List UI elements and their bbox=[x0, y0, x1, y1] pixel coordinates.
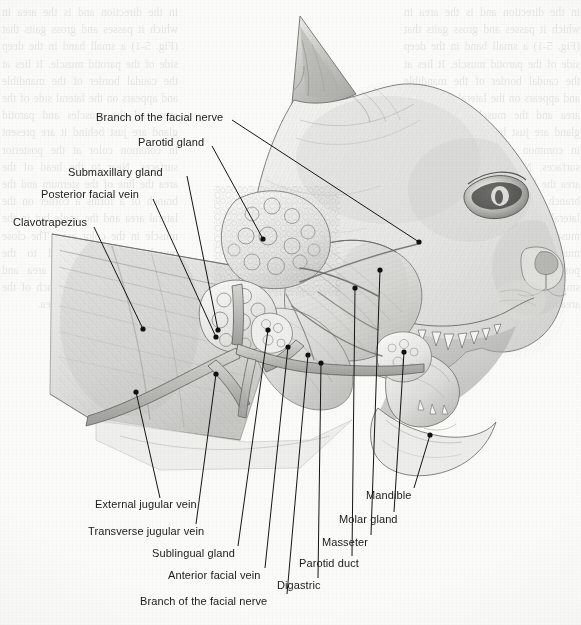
dot-sublingual-gland bbox=[265, 327, 270, 332]
label-submaxillary-gland: Submaxillary gland bbox=[68, 166, 163, 178]
label-anterior-facial-vein: Anterior facial vein bbox=[168, 569, 261, 581]
label-branch-facial-nerve-upper: Branch of the facial nerve bbox=[96, 111, 223, 123]
dot-parotid-duct bbox=[352, 285, 357, 290]
label-parotid-duct: Parotid duct bbox=[299, 557, 359, 569]
label-digastric: Digastric bbox=[277, 579, 321, 591]
dot-posterior-facial-vein bbox=[213, 334, 218, 339]
label-clavotrapezius: Clavotrapezius bbox=[13, 216, 87, 228]
dot-masseter bbox=[377, 267, 382, 272]
label-branch-facial-nerve-lower: Branch of the facial nerve bbox=[140, 595, 267, 607]
posterior-facial-vein-vessel bbox=[232, 284, 244, 346]
label-masseter: Masseter bbox=[322, 536, 368, 548]
label-parotid-gland: Parotid gland bbox=[138, 136, 204, 148]
label-transverse-jugular-vein: Transverse jugular vein bbox=[88, 525, 204, 537]
dot-branch-facial-nerve-lower bbox=[305, 352, 310, 357]
dot-clavotrapezius bbox=[140, 326, 145, 331]
label-mandible: Mandible bbox=[366, 489, 411, 501]
dot-transverse-jugular-vein bbox=[213, 371, 218, 376]
figure-plate: in the direction and is the area in whic… bbox=[0, 0, 581, 625]
dot-submaxillary-gland bbox=[215, 327, 220, 332]
parotid-gland bbox=[214, 186, 340, 296]
dot-parotid-gland bbox=[260, 236, 265, 241]
dot-anterior-facial-vein bbox=[285, 344, 290, 349]
label-posterior-facial-vein: Posterior facial vein bbox=[41, 188, 139, 200]
label-external-jugular-vein: External jugular vein bbox=[95, 498, 197, 510]
dot-branch-facial-nerve-upper bbox=[416, 239, 421, 244]
label-molar-gland: Molar gland bbox=[339, 513, 398, 525]
dot-external-jugular-vein bbox=[133, 389, 138, 394]
label-sublingual-gland: Sublingual gland bbox=[152, 547, 235, 559]
dot-mandible bbox=[427, 432, 432, 437]
dot-molar-gland bbox=[401, 349, 406, 354]
dot-digastric bbox=[318, 360, 323, 365]
